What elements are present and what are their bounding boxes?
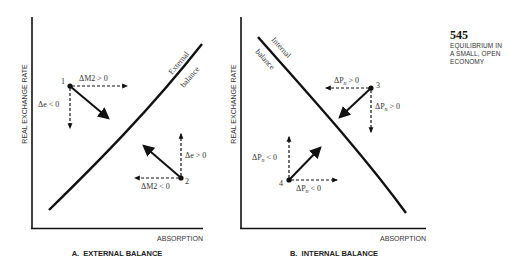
arrow-resultant-4 <box>290 148 320 179</box>
section-title-line: A SMALL, OPEN <box>450 50 516 58</box>
panel-caption: B. INTERNAL BALANCE <box>290 249 378 258</box>
page-number: 545 <box>450 28 516 42</box>
section-title-line: ECONOMY <box>450 58 516 66</box>
label-de-positive: Δe > 0 <box>185 151 206 160</box>
label-dm2-positive: ΔM2 > 0 <box>79 74 108 83</box>
y-axis-label: REAL EXCHANGE RATE <box>230 64 237 144</box>
label-pn-positive-vertical: ΔPn > 0 <box>375 102 400 112</box>
arrow-resultant-2 <box>144 146 180 177</box>
y-axis-label: REAL EXCHANGE RATE <box>21 64 28 144</box>
arrow-resultant-1 <box>71 87 108 118</box>
label-pn-positive-horizontal: ΔPn > 0 <box>334 76 359 86</box>
label-pn-negative-horizontal: ΔPn < 0 <box>296 184 321 194</box>
page-margin-header: 545 EQUILIBRIUM IN A SMALL, OPEN ECONOMY <box>450 28 516 66</box>
x-axis-label: ABSORPTION <box>157 235 203 242</box>
section-title-line: EQUILIBRIUM IN <box>450 42 516 50</box>
point-2-label: 2 <box>185 177 189 186</box>
label-dm2-negative: ΔM2 < 0 <box>141 182 170 191</box>
panel-caption: A. EXTERNAL BALANCE <box>72 249 163 258</box>
point-3-label: 3 <box>376 81 380 90</box>
panel-internal-balance: REAL EXCHANGE RATE ABSORPTION B. INTERNA… <box>230 17 426 258</box>
figure: REAL EXCHANGE RATE ABSORPTION A. EXTERNA… <box>0 0 516 262</box>
label-pn-negative-vertical: ΔPn < 0 <box>252 153 277 163</box>
section-title: EQUILIBRIUM IN A SMALL, OPEN ECONOMY <box>450 42 516 66</box>
point-4-label: 4 <box>279 179 283 188</box>
curve-label-balance: balance <box>254 47 277 72</box>
point-1-label: 1 <box>61 77 65 86</box>
arrow-resultant-3 <box>340 89 370 117</box>
curve-label-internal: Internal <box>270 35 294 60</box>
panel-external-balance: REAL EXCHANGE RATE ABSORPTION A. EXTERNA… <box>21 17 206 258</box>
x-axis-label: ABSORPTION <box>380 235 426 242</box>
label-de-negative: Δe < 0 <box>38 100 59 109</box>
